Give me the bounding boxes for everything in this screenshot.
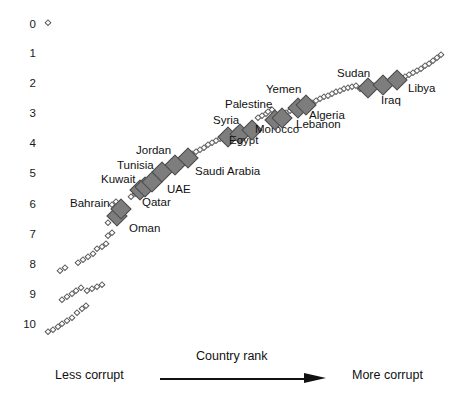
country-label-uae: UAE — [167, 183, 191, 195]
country-label-iraq: Iraq — [381, 94, 401, 106]
country-label-saudi-arabia: Saudi Arabia — [195, 165, 260, 177]
country-label-bahrain: Bahrain — [70, 197, 110, 209]
corruption-rank-scatter-chart: 012345678910 BahrainOmanKuwaitQatarUAETu… — [0, 0, 467, 400]
plot-area: BahrainOmanKuwaitQatarUAETunisiaJordanSa… — [0, 0, 467, 345]
x-axis-title: Country rank — [196, 349, 268, 363]
country-label-kuwait: Kuwait — [101, 173, 136, 185]
x-axis: Country rank Less corrupt More corrupt — [0, 345, 467, 400]
country-label-syria: Syria — [213, 114, 239, 126]
country-label-sudan: Sudan — [337, 67, 370, 79]
country-label-jordan: Jordan — [136, 144, 171, 156]
country-label-qatar: Qatar — [142, 196, 171, 208]
country-label-palestine: Palestine — [225, 98, 272, 110]
arrow-head — [304, 373, 326, 383]
arrow-line — [160, 378, 308, 380]
country-label-libya: Libya — [408, 82, 436, 94]
x-axis-right-label: More corrupt — [352, 368, 423, 382]
rank-direction-arrow-icon — [160, 373, 328, 385]
country-label-algeria: Algeria — [309, 109, 345, 121]
country-label-tunisia: Tunisia — [117, 159, 154, 171]
x-axis-left-label: Less corrupt — [55, 368, 124, 382]
country-label-yemen: Yemen — [266, 83, 301, 95]
data-point-unlabelled — [44, 19, 52, 27]
country-label-oman: Oman — [129, 222, 160, 234]
